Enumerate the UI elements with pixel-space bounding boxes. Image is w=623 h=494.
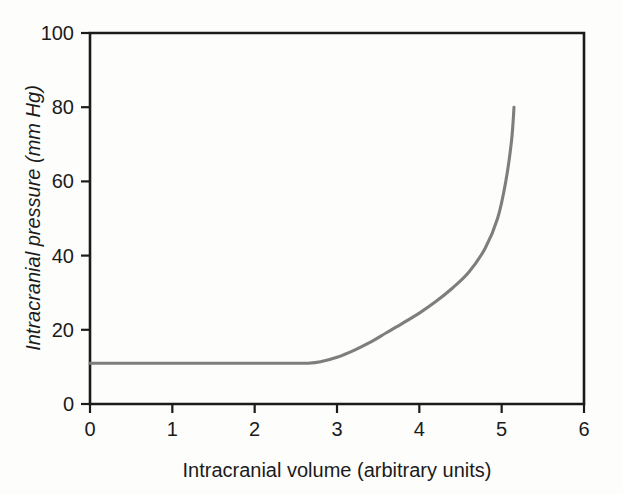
chart-figure: 020406080100 0123456 Intracranial volume… <box>0 0 623 494</box>
x-tick-label: 0 <box>84 418 95 440</box>
x-tick-label: 5 <box>496 418 507 440</box>
y-tick-label: 100 <box>41 22 74 44</box>
x-tick-label: 2 <box>249 418 260 440</box>
x-axis-tick-labels: 0123456 <box>84 418 589 440</box>
chart-canvas: 020406080100 0123456 Intracranial volume… <box>0 0 623 494</box>
y-axis-tick-labels: 020406080100 <box>41 22 74 415</box>
y-axis-ticks <box>81 33 90 404</box>
x-tick-label: 6 <box>578 418 589 440</box>
x-tick-label: 4 <box>414 418 425 440</box>
y-tick-label: 40 <box>52 245 74 267</box>
x-axis-ticks <box>90 404 584 413</box>
y-tick-label: 0 <box>63 393 74 415</box>
axis-frame <box>90 33 584 404</box>
plot-frame <box>90 33 584 404</box>
x-tick-label: 1 <box>167 418 178 440</box>
y-tick-label: 60 <box>52 170 74 192</box>
y-axis-title: Intracranial pressure (mm Hg) <box>22 85 44 351</box>
x-tick-label: 3 <box>331 418 342 440</box>
y-tick-label: 20 <box>52 319 74 341</box>
y-tick-label: 80 <box>52 96 74 118</box>
data-series-group <box>90 107 514 363</box>
pressure-volume-curve <box>90 107 514 363</box>
x-axis-title: Intracranial volume (arbitrary units) <box>183 459 492 481</box>
